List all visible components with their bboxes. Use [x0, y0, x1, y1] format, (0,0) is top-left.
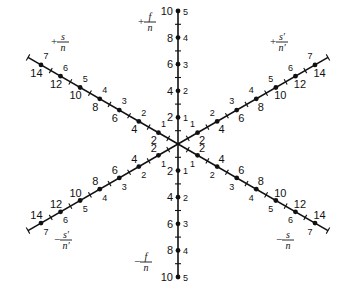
major-scale-label: 6	[112, 112, 118, 124]
major-scale-label: 6	[167, 218, 173, 230]
minor-scale-label: 5	[268, 74, 273, 84]
major-scale-label: 6	[112, 164, 118, 176]
scale-point	[176, 62, 181, 67]
major-scale-label: 2	[151, 142, 157, 154]
minor-scale-label: 4	[102, 85, 107, 95]
minor-scale-label: 6	[63, 215, 68, 225]
major-scale-label: 10	[161, 271, 173, 283]
major-scale-label: 10	[70, 89, 82, 101]
minor-scale-label: 2	[183, 86, 188, 96]
minor-scale-label: 1	[183, 166, 188, 176]
major-scale-label: 12	[294, 78, 306, 90]
minor-scale-label: 5	[183, 273, 188, 283]
minor-scale-label: 4	[183, 33, 188, 43]
scale-point	[176, 275, 181, 280]
major-scale-label: 4	[131, 123, 137, 135]
axis-label-f-negative: −fn	[134, 251, 152, 273]
minor-scale-label: 5	[268, 204, 273, 214]
scale-point	[176, 115, 181, 120]
axis-s-positive: 21426384105126147	[26, 51, 178, 146]
minor-scale-label: 3	[229, 182, 234, 192]
scale-point	[39, 221, 44, 226]
label-numerator: s	[61, 31, 65, 42]
scale-point	[313, 221, 318, 226]
scale-point	[176, 248, 181, 253]
label-sign: −	[54, 233, 60, 245]
major-scale-label: 14	[313, 67, 325, 79]
label-denominator: n′	[278, 42, 286, 53]
label-sign: +	[51, 35, 57, 47]
label-denominator: n′	[62, 240, 70, 251]
minor-scale-label: 2	[210, 170, 215, 180]
major-scale-label: 4	[131, 153, 137, 165]
minor-scale-label: 4	[183, 246, 188, 256]
scale-point	[176, 35, 181, 40]
minor-scale-label: 1	[190, 159, 195, 169]
scale-point	[176, 88, 181, 93]
label-numerator: f	[145, 251, 149, 262]
label-sign: −	[276, 233, 282, 245]
major-scale-label: 10	[274, 89, 286, 101]
minor-scale-label: 6	[288, 63, 293, 73]
minor-scale-label: 6	[63, 63, 68, 73]
minor-scale-label: 4	[249, 85, 254, 95]
major-scale-label: 14	[30, 209, 42, 221]
minor-scale-label: 1	[161, 159, 166, 169]
label-sign: −	[134, 255, 140, 267]
label-denominator: n	[286, 240, 291, 251]
scale-point	[215, 164, 220, 169]
minor-scale-label: 4	[249, 193, 254, 203]
major-scale-label: 14	[313, 209, 325, 221]
major-scale-label: 8	[167, 32, 173, 44]
minor-scale-label: 1	[183, 113, 188, 123]
scale-point	[58, 209, 63, 214]
minor-scale-label: 3	[122, 96, 127, 106]
axis-s-prime-positive: 21426384105126147	[178, 51, 330, 146]
major-scale-label: 8	[258, 175, 264, 187]
scale-point	[176, 168, 181, 173]
axis-s-negative: 21426384105126147	[178, 142, 330, 237]
scale-point	[176, 9, 181, 14]
minor-scale-label: 5	[183, 7, 188, 17]
scale-point	[273, 198, 278, 203]
scale-point	[176, 221, 181, 226]
major-scale-label: 14	[30, 67, 42, 79]
scale-point	[195, 153, 200, 158]
minor-scale-label: 2	[141, 170, 146, 180]
major-scale-label: 6	[238, 112, 244, 124]
major-scale-label: 4	[219, 153, 225, 165]
label-numerator: s	[286, 229, 290, 240]
scale-point	[136, 164, 141, 169]
major-scale-label: 4	[219, 123, 225, 135]
label-denominator: n	[144, 262, 149, 273]
major-scale-label: 4	[167, 85, 173, 97]
minor-scale-label: 3	[183, 60, 188, 70]
major-scale-label: 10	[161, 5, 173, 17]
minor-scale-label: 7	[307, 227, 312, 237]
major-scale-label: 4	[167, 191, 173, 203]
major-scale-label: 8	[92, 175, 98, 187]
axis-label-s-negative: −sn	[276, 229, 294, 251]
minor-scale-label: 2	[183, 193, 188, 203]
minor-scale-label: 5	[83, 204, 88, 214]
label-denominator: n	[61, 42, 66, 53]
major-scale-label: 2	[167, 111, 173, 123]
scale-point	[176, 195, 181, 200]
major-scale-label: 12	[50, 198, 62, 210]
axis-label-s-prime-positive: +s′n′	[270, 31, 288, 53]
axis-s-prime-negative: 21426384105126147	[26, 142, 178, 237]
minor-scale-label: 2	[210, 108, 215, 118]
label-sign: +	[270, 35, 276, 47]
scale-point	[254, 187, 259, 192]
scale-point	[97, 187, 102, 192]
label-sign: +	[138, 15, 144, 27]
axis-labels-layer: +fn−fn+sn−sn+s′n′−s′n′	[51, 11, 294, 273]
axis-label-s-prime-negative: −s′n′	[54, 229, 72, 251]
minor-scale-label: 3	[229, 96, 234, 106]
major-scale-label: 12	[50, 78, 62, 90]
major-scale-label: 12	[294, 198, 306, 210]
minor-scale-label: 4	[102, 193, 107, 203]
scale-point	[156, 153, 161, 158]
label-numerator: f	[149, 11, 153, 22]
scale-point	[234, 176, 239, 181]
